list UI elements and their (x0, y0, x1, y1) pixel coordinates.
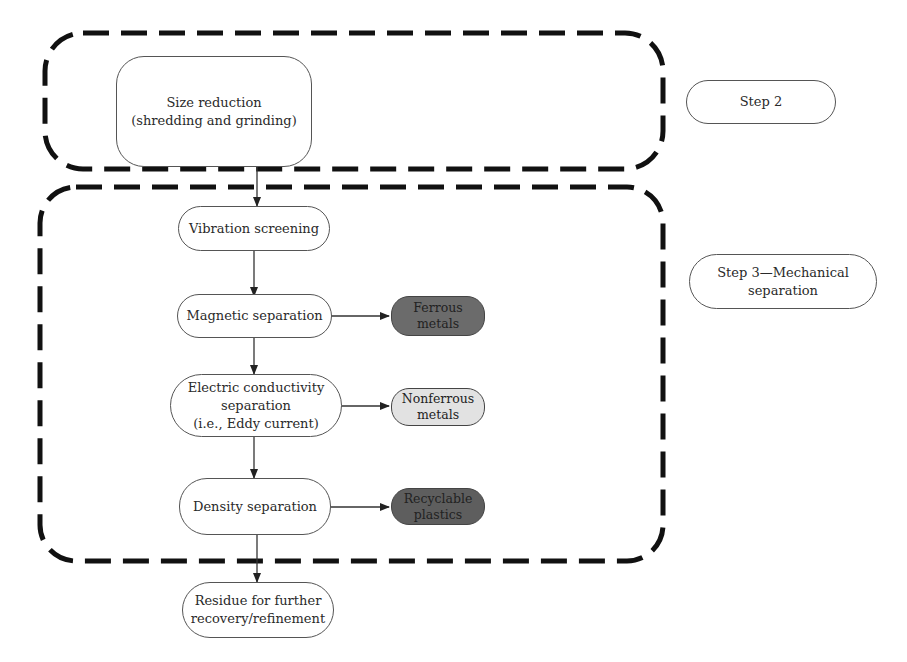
density-separation-node: Density separation (179, 478, 331, 535)
step3-group-border (40, 187, 663, 561)
residue-node: Residue for further recovery/refinement (182, 582, 334, 638)
ferrous-metals-output: Ferrous metals (391, 296, 485, 336)
step3-label: Step 3—Mechanical separation (689, 254, 877, 309)
magnetic-separation-node: Magnetic separation (177, 294, 332, 338)
step2-label: Step 2 (686, 80, 836, 124)
nonferrous-metals-output: Nonferrous metals (391, 388, 485, 426)
electric-conductivity-node: Electric conductivity separation (i.e., … (170, 374, 342, 437)
recyclable-plastics-output: Recyclable plastics (391, 488, 485, 525)
size-reduction-node: Size reduction (shredding and grinding) (116, 56, 312, 167)
vibration-screening-node: Vibration screening (178, 206, 330, 251)
